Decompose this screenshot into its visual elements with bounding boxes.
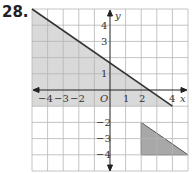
svg-text:−3: −3 (54, 93, 69, 104)
svg-text:−4: −4 (38, 93, 53, 104)
svg-text:2: 2 (139, 93, 145, 104)
x-axis-label: x (180, 93, 186, 104)
coordinate-plane: y x O −4 −3 −2 1 2 4 4 3 1 −2 −3 −4 (0, 0, 192, 173)
svg-text:1: 1 (123, 93, 129, 104)
svg-text:4: 4 (169, 93, 175, 104)
svg-text:4: 4 (101, 20, 107, 31)
svg-text:−3: −3 (96, 133, 111, 144)
svg-text:−2: −2 (70, 93, 85, 104)
svg-text:−4: −4 (96, 149, 111, 160)
svg-text:1: 1 (101, 68, 107, 79)
origin-label: O (100, 93, 108, 104)
y-axis-label: y (114, 10, 121, 21)
svg-text:3: 3 (101, 36, 107, 47)
svg-text:−2: −2 (96, 117, 111, 128)
